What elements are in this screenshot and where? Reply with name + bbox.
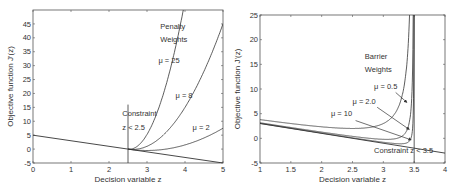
x-tick-label: 2	[107, 165, 111, 174]
annotation: Weights	[365, 65, 392, 74]
annotation: μ = 2	[193, 123, 210, 132]
annotation: μ = 10	[331, 109, 352, 118]
x-tick-label: 1	[69, 165, 73, 174]
x-tick-label: 2.5	[347, 165, 357, 174]
y-tick-label: 10	[23, 117, 31, 126]
y-tick-label: -5	[24, 159, 31, 168]
y-tick-label: 20	[250, 35, 258, 44]
x-tick-label: 2	[320, 165, 324, 174]
x-tick-label: 1.5	[286, 165, 296, 174]
annotation: μ = 2.0	[353, 97, 376, 106]
annotation: Constraint	[122, 109, 157, 118]
annotation-arrow-icon	[396, 92, 407, 102]
annotation: Weights	[160, 35, 187, 44]
annotation: μ = 25	[158, 56, 179, 65]
annotation: Constraint z < 3.5	[374, 146, 433, 155]
y-tick-label: 30	[23, 61, 31, 70]
x-axis-label: Decision variable z	[94, 175, 161, 184]
y-tick-label: 0	[254, 134, 258, 143]
barrier-chart-svg: 11.522.533.54-50510152025Decision variab…	[231, 0, 462, 188]
penalty-chart: 012345-5051015202530354045Decision varia…	[0, 0, 231, 188]
y-tick-label: -5	[251, 159, 258, 168]
y-tick-label: 20	[23, 89, 31, 98]
y-tick-label: 25	[23, 75, 31, 84]
x-tick-label: 4	[443, 165, 447, 174]
y-axis-label: Objective function J'(z)	[6, 46, 15, 127]
y-tick-label: 15	[250, 60, 258, 69]
annotation: Barrier	[365, 52, 388, 61]
y-tick-label: 15	[23, 103, 31, 112]
x-tick-label: 3.5	[409, 165, 419, 174]
x-tick-label: 1	[258, 165, 262, 174]
y-tick-label: 5	[254, 109, 258, 118]
y-tick-label: 35	[23, 47, 31, 56]
annotation: Penalty	[160, 22, 185, 31]
x-tick-label: 4	[183, 165, 187, 174]
annotation-arrow-icon	[377, 107, 409, 129]
y-tick-label: 0	[27, 145, 31, 154]
annotation: z < 2.5	[122, 123, 145, 132]
x-tick-label: 3	[145, 165, 149, 174]
x-tick-label: 0	[31, 165, 35, 174]
y-tick-label: 40	[23, 33, 31, 42]
annotation: μ = 0.5	[374, 82, 397, 91]
y-axis-label: Objective function J'(z)	[233, 48, 242, 129]
penalty-chart-svg: 012345-5051015202530354045Decision varia…	[0, 0, 231, 188]
y-tick-label: 5	[27, 131, 31, 140]
barrier-chart: 11.522.533.54-50510152025Decision variab…	[231, 0, 462, 188]
plot-frame	[260, 15, 445, 163]
annotation: μ = 8	[176, 91, 193, 100]
x-tick-label: 5	[221, 165, 225, 174]
x-axis-label: Decision variable z	[319, 175, 386, 184]
y-tick-label: 25	[250, 11, 258, 20]
x-tick-label: 3	[381, 165, 385, 174]
y-tick-label: 45	[23, 20, 31, 29]
y-tick-label: 10	[250, 85, 258, 94]
